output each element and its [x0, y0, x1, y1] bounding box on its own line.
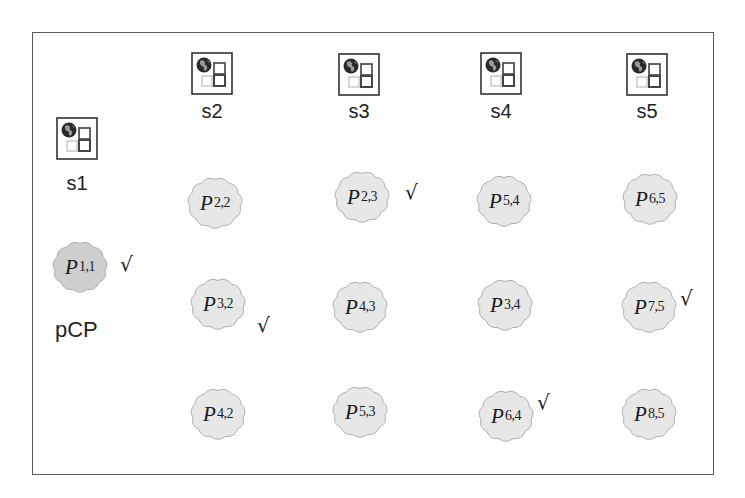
process-node: P4,3 [329, 278, 391, 336]
process-node: P2,3 [331, 168, 393, 226]
process-subscript: 4,3 [359, 299, 375, 315]
process-label: P5,3 [329, 383, 391, 441]
process-node: P6,4 [475, 387, 537, 445]
process-node: P1,1 [49, 238, 111, 296]
process-label: P3,2 [187, 275, 249, 333]
process-label: P7,5 [618, 278, 680, 336]
process-label: P1,1 [49, 238, 111, 296]
process-subscript: 4,2 [217, 406, 233, 422]
process-label: P4,2 [187, 385, 249, 443]
process-node: P7,5 [618, 278, 680, 336]
process-name: P [200, 191, 213, 216]
server-icon-s3 [338, 53, 380, 96]
server-label-s5: s5 [617, 100, 677, 122]
process-node: P6,5 [619, 170, 681, 228]
process-label: P8,5 [618, 385, 680, 443]
process-name: P [345, 295, 358, 320]
process-subscript: 3,2 [217, 296, 233, 312]
process-subscript: 3,4 [504, 297, 520, 313]
process-label: P6,4 [475, 387, 537, 445]
process-node: P5,4 [473, 172, 535, 230]
process-name: P [345, 400, 358, 425]
checkmark-icon: √ [537, 392, 550, 412]
process-name: P [635, 187, 648, 212]
server-icon-s2 [191, 52, 233, 95]
process-name: P [203, 292, 216, 317]
process-subscript: 7,5 [648, 299, 664, 315]
server-label-s2: s2 [182, 100, 242, 122]
process-label: P3,4 [474, 276, 536, 334]
process-node: P5,3 [329, 383, 391, 441]
process-name: P [634, 402, 647, 427]
server-icon-s4 [480, 52, 522, 95]
process-node: P8,5 [618, 385, 680, 443]
process-name: P [489, 189, 502, 214]
pcp-label: pCP [55, 317, 98, 343]
process-name: P [634, 295, 647, 320]
process-subscript: 5,3 [359, 404, 375, 420]
process-name: P [490, 293, 503, 318]
server-label-s1: s1 [47, 172, 107, 194]
process-subscript: 2,2 [214, 195, 230, 211]
process-node: P4,2 [187, 385, 249, 443]
process-node: P3,4 [474, 276, 536, 334]
process-subscript: 5,4 [503, 193, 519, 209]
process-subscript: 6,4 [505, 408, 521, 424]
process-subscript: 6,5 [649, 191, 665, 207]
process-subscript: 2,3 [361, 189, 377, 205]
server-label-s4: s4 [471, 100, 531, 122]
process-name: P [65, 255, 78, 280]
server-icon-s5 [626, 53, 668, 96]
server-icon-s1 [56, 117, 98, 160]
checkmark-icon: √ [405, 182, 418, 202]
process-label: P2,3 [331, 168, 393, 226]
checkmark-icon: √ [680, 288, 693, 308]
process-label: P2,2 [184, 174, 246, 232]
process-label: P4,3 [329, 278, 391, 336]
process-label: P5,4 [473, 172, 535, 230]
checkmark-icon: √ [120, 254, 133, 274]
checkmark-icon: √ [257, 315, 270, 335]
process-label: P6,5 [619, 170, 681, 228]
process-name: P [203, 402, 216, 427]
server-label-s3: s3 [329, 100, 389, 122]
process-subscript: 1,1 [79, 259, 95, 275]
process-node: P3,2 [187, 275, 249, 333]
process-name: P [491, 404, 504, 429]
process-node: P2,2 [184, 174, 246, 232]
process-subscript: 8,5 [648, 406, 664, 422]
process-name: P [347, 185, 360, 210]
